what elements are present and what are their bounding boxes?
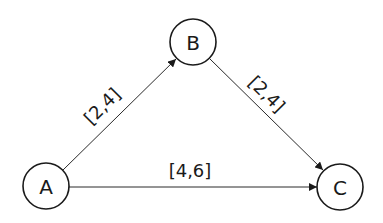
edge-a-b: [2,4] (63, 59, 176, 170)
node-b: B (170, 19, 216, 65)
edge-line-b-c (210, 59, 323, 170)
edge-label-a-c: [4,6] (169, 160, 212, 181)
edge-a-c: [4,6] (69, 160, 317, 188)
edge-b-c: [2,4] (210, 59, 323, 170)
node-c: C (317, 164, 363, 210)
node-a: A (23, 163, 69, 209)
edge-label-a-b: [2,4] (79, 83, 124, 128)
node-b-label: B (186, 31, 200, 55)
graph-canvas: [2,4] [2,4] [4,6] A B C (0, 0, 383, 223)
edge-label-b-c: [2,4] (244, 71, 289, 116)
node-c-label: C (333, 176, 347, 200)
node-a-label: A (39, 175, 53, 199)
